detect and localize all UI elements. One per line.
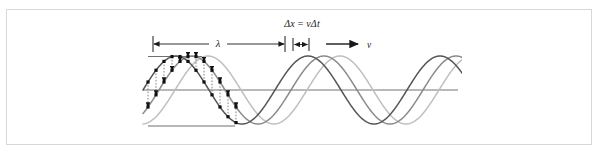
particle-marker — [194, 69, 197, 72]
particle-marker — [226, 93, 229, 96]
particle-marker — [154, 93, 157, 96]
wavelength-label: λ — [215, 38, 221, 49]
particle-marker — [234, 121, 237, 124]
wavelength-dimension-group: λ — [153, 36, 285, 52]
velocity-label: v — [367, 40, 372, 50]
particle-marker — [146, 105, 149, 108]
particle-marker — [170, 69, 173, 72]
figure-root: λ Δx = vΔt v — [0, 0, 603, 155]
particle-marker — [170, 55, 173, 58]
particle-marker — [210, 69, 213, 72]
wave-diagram-canvas: λ Δx = vΔt v — [0, 0, 603, 155]
particle-marker — [202, 60, 205, 63]
particle-marker — [210, 93, 213, 96]
particle-marker — [162, 60, 165, 63]
displacement-dimension-group: Δx = vΔt — [283, 18, 320, 51]
particle-marker — [154, 69, 157, 72]
particle-marker — [202, 80, 205, 83]
particle-marker — [146, 80, 149, 83]
displacement-label: Δx = vΔt — [283, 18, 320, 29]
particle-marker — [162, 80, 165, 83]
velocity-arrow-group: v — [326, 40, 372, 50]
particle-marker — [186, 55, 189, 58]
particle-marker — [218, 80, 221, 83]
particle-marker — [186, 60, 189, 63]
particle-marker — [234, 105, 237, 108]
particle-marker — [178, 60, 181, 63]
particle-marker — [178, 55, 181, 58]
particle-marker — [226, 115, 229, 118]
particle-marker — [194, 55, 197, 58]
particle-marker — [218, 105, 221, 108]
